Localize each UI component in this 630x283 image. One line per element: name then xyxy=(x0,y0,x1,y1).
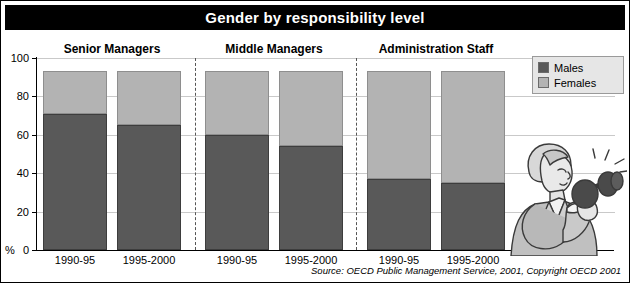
y-axis-label-100: 100 xyxy=(11,52,29,64)
y-tick-40 xyxy=(32,173,37,174)
x-axis-line xyxy=(36,250,614,251)
group-header-middle-managers: Middle Managers xyxy=(184,42,364,56)
bar-segment-females[interactable] xyxy=(367,71,431,179)
bar-segment-females[interactable] xyxy=(279,71,343,146)
bar-segment-males[interactable] xyxy=(279,146,343,250)
plot-area: 020406080100 xyxy=(37,58,521,250)
group-header-administration-staff: Administration Staff xyxy=(346,42,526,56)
bar-6[interactable] xyxy=(441,71,505,250)
y-tick-60 xyxy=(32,135,37,136)
x-axis-label-2: 1995-2000 xyxy=(107,254,191,266)
bar-segment-males[interactable] xyxy=(441,183,505,250)
source-note: Source: OECD Public Management Service, … xyxy=(311,265,621,276)
bar-2[interactable] xyxy=(117,71,181,250)
bar-1[interactable] xyxy=(43,71,107,250)
bar-segment-males[interactable] xyxy=(367,179,431,250)
group-header-senior-managers: Senior Managers xyxy=(22,42,202,56)
y-axis-label-60: 60 xyxy=(17,129,29,141)
legend-item-females: Females xyxy=(538,75,618,90)
y-tick-0 xyxy=(32,250,37,251)
bar-segment-females[interactable] xyxy=(205,71,269,134)
bar-4[interactable] xyxy=(279,71,343,250)
legend-swatch-males-icon xyxy=(538,62,549,73)
x-axis-label-3: 1990-95 xyxy=(195,254,279,266)
bar-segment-males[interactable] xyxy=(205,135,269,250)
bar-segment-males[interactable] xyxy=(43,114,107,250)
bar-3[interactable] xyxy=(205,71,269,250)
bar-segment-males[interactable] xyxy=(117,125,181,250)
y-axis-label-40: 40 xyxy=(17,167,29,179)
x-axis-label-4: 1995-2000 xyxy=(269,254,353,266)
group-separator-1 xyxy=(195,58,196,250)
gridline-100 xyxy=(37,58,615,59)
title-banner: Gender by responsibility level xyxy=(5,5,625,30)
y-axis-label-80: 80 xyxy=(17,90,29,102)
legend-label-females: Females xyxy=(554,77,596,89)
group-separator-2 xyxy=(356,58,357,250)
x-axis-label-6: 1995-2000 xyxy=(431,254,515,266)
y-tick-20 xyxy=(32,212,37,213)
bar-segment-females[interactable] xyxy=(117,71,181,125)
x-axis-label-1: 1990-95 xyxy=(33,254,117,266)
chart-figure: Gender by responsibility level Senior Ma… xyxy=(0,0,630,283)
legend-label-males: Males xyxy=(554,62,583,74)
illustration-woman-lifting-dumbbell xyxy=(505,138,627,256)
bar-5[interactable] xyxy=(367,71,431,250)
y-tick-100 xyxy=(32,58,37,59)
bar-segment-females[interactable] xyxy=(43,71,107,113)
bar-segment-females[interactable] xyxy=(441,71,505,182)
legend-swatch-females-icon xyxy=(538,77,549,88)
y-tick-80 xyxy=(32,96,37,97)
x-axis-label-5: 1990-95 xyxy=(357,254,441,266)
legend: Males Females xyxy=(532,56,624,94)
y-axis-label-0: 0 xyxy=(23,244,29,256)
legend-item-males: Males xyxy=(538,60,618,75)
y-axis-label-20: 20 xyxy=(17,206,29,218)
y-axis-unit: % xyxy=(5,244,15,256)
chart-title: Gender by responsibility level xyxy=(205,9,424,26)
